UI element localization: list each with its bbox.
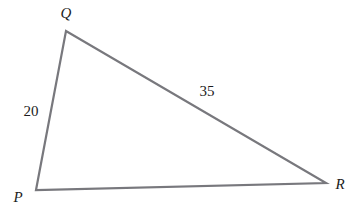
vertex-label-r: R: [335, 177, 344, 192]
side-length-qr: 35: [200, 84, 215, 99]
triangle-outline: [36, 31, 326, 190]
vertex-label-p: P: [13, 190, 22, 205]
side-length-pq: 20: [24, 104, 39, 119]
triangle-figure: P Q R 20 35: [0, 0, 364, 214]
vertex-label-q: Q: [61, 6, 72, 21]
triangle-graphic: [0, 0, 364, 214]
